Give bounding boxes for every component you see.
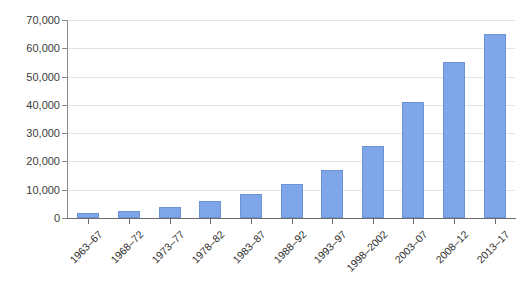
x-axis-tick-mark (332, 219, 333, 224)
bar (484, 34, 506, 218)
y-axis-tick-label: 60,000 (0, 42, 60, 54)
bar (402, 102, 424, 218)
x-axis-tick-mark (251, 219, 252, 224)
y-axis-tick-label: 0 (0, 212, 60, 224)
y-axis-tick-label: 40,000 (0, 99, 60, 111)
y-axis-tick-mark (62, 48, 67, 49)
y-axis-tick-mark (62, 105, 67, 106)
x-axis-tick-label-text: 2008–12 (433, 228, 470, 265)
bar (240, 194, 262, 218)
x-axis-tick-label-text: 1983–87 (230, 228, 267, 265)
x-axis-tick-label-text: 1968–72 (108, 228, 145, 265)
bar (321, 170, 343, 218)
y-axis-tick-mark (62, 190, 67, 191)
bar (77, 213, 99, 218)
bar (159, 207, 181, 218)
plot-area (68, 20, 515, 218)
y-axis-tick-label: 50,000 (0, 71, 60, 83)
y-axis-tick-label: 10,000 (0, 184, 60, 196)
x-axis-tick-mark (413, 219, 414, 224)
x-axis-tick-mark (170, 219, 171, 224)
y-axis-tick-label: 30,000 (0, 127, 60, 139)
bar (362, 146, 384, 218)
x-axis-tick-mark (495, 219, 496, 224)
y-axis-tick-label: 70,000 (0, 14, 60, 26)
x-axis-tick-mark (292, 219, 293, 224)
x-axis-tick-label-text: 1993–97 (311, 228, 348, 265)
x-axis-tick-mark (88, 219, 89, 224)
bar (281, 184, 303, 219)
bar (443, 62, 465, 218)
x-axis-tick-mark (210, 219, 211, 224)
y-axis-tick-label: 20,000 (0, 155, 60, 167)
x-axis-tick-label-text: 2013–17 (474, 228, 511, 265)
x-axis-tick-label-text: 1998–2002 (344, 228, 390, 274)
y-axis-tick-mark (62, 20, 67, 21)
gridline (68, 20, 515, 21)
bar (199, 201, 221, 218)
y-axis-tick-mark (62, 218, 67, 219)
x-axis-tick-label-text: 1988–92 (271, 228, 308, 265)
y-axis-tick-mark (62, 133, 67, 134)
x-axis-tick-mark (373, 219, 374, 224)
x-axis-tick-label-text: 1973–77 (149, 228, 186, 265)
bar (118, 211, 140, 218)
x-axis-tick-label-text: 2003–07 (392, 228, 429, 265)
x-axis-tick-label-text: 1963–67 (67, 228, 104, 265)
y-axis-tick-mark (62, 77, 67, 78)
gridline (68, 48, 515, 49)
x-axis-tick-mark (129, 219, 130, 224)
x-axis-tick-label-text: 1978–82 (189, 228, 226, 265)
bar-chart: 010,00020,00030,00040,00050,00060,00070,… (0, 0, 528, 281)
x-axis-tick-mark (454, 219, 455, 224)
y-axis-tick-mark (62, 161, 67, 162)
